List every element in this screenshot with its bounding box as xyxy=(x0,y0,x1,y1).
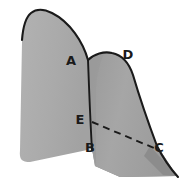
diagram-svg: A D E B C xyxy=(0,0,184,185)
figure-container: A D E B C xyxy=(0,0,184,185)
label-E: E xyxy=(76,112,85,127)
label-B: B xyxy=(85,140,95,155)
left-hill-shape xyxy=(20,10,92,162)
label-D: D xyxy=(123,47,134,62)
label-A: A xyxy=(66,53,76,68)
label-C: C xyxy=(154,140,164,155)
